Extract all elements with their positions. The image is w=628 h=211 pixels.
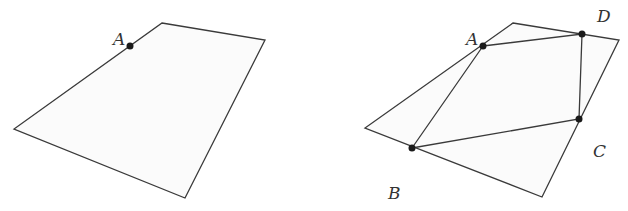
right-point-c bbox=[576, 116, 583, 123]
right-point-a bbox=[480, 43, 487, 50]
left-label-a: A bbox=[111, 29, 125, 49]
left-quadrilateral-outline bbox=[14, 23, 265, 198]
right-label-c: C bbox=[593, 141, 606, 161]
right-point-d bbox=[579, 31, 586, 38]
right-point-b bbox=[409, 145, 416, 152]
right-label-a: A bbox=[464, 29, 478, 49]
right-figure: A D C B bbox=[365, 6, 619, 203]
right-label-d: D bbox=[596, 6, 611, 26]
left-figure: A bbox=[14, 23, 265, 198]
right-label-b: B bbox=[387, 183, 401, 203]
left-point-a bbox=[127, 43, 134, 50]
diagram-canvas: A A D C B bbox=[0, 0, 628, 211]
